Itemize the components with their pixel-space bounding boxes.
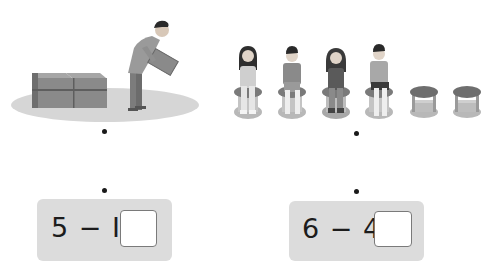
stools-illustration	[225, 40, 494, 130]
empty-stool-2-icon	[453, 86, 481, 118]
answer-box-right[interactable]	[374, 211, 412, 247]
match-dot-right-bottom[interactable]	[354, 189, 359, 194]
child-3-girl-icon	[322, 48, 350, 119]
scene-children-on-stools	[225, 40, 494, 130]
child-2-boy-icon	[278, 46, 306, 119]
child-1-girl-icon	[234, 46, 262, 119]
match-dot-left-bottom[interactable]	[102, 188, 107, 193]
equation-panel-right: 6 − 4 =	[289, 201, 424, 261]
scene-man-moving-boxes	[0, 0, 220, 130]
match-dot-right-top[interactable]	[354, 131, 359, 136]
match-dot-left-top[interactable]	[102, 129, 107, 134]
empty-stool-1-icon	[410, 86, 438, 118]
box-stack-left-icon	[32, 73, 74, 108]
child-4-boy-icon	[365, 44, 393, 119]
answer-box-left[interactable]	[120, 210, 157, 247]
equation-panel-left: 5 − I =	[37, 199, 172, 261]
boxes-illustration	[0, 0, 220, 130]
